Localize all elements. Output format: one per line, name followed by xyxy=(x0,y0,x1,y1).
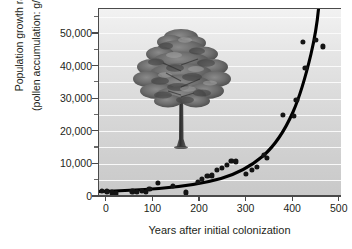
y-tick-label-10000: 10,000 xyxy=(0,157,92,169)
plot-area xyxy=(98,8,341,196)
x-axis-title: Years after initial colonization xyxy=(98,224,341,236)
x-axis-line xyxy=(98,195,341,197)
x-tick-500 xyxy=(338,196,339,201)
x-tick-400 xyxy=(292,196,293,201)
x-tick-100 xyxy=(152,196,153,201)
x-tick-label-0: 0 xyxy=(103,202,109,214)
y-tick-label-20000: 20,000 xyxy=(0,125,92,137)
x-tick-label-200: 200 xyxy=(190,202,208,214)
figure-container: Population growth rate (pollen accumulat… xyxy=(0,0,352,249)
x-tick-label-100: 100 xyxy=(144,202,162,214)
x-tick-label-300: 300 xyxy=(237,202,255,214)
y-axis-title-line1: Population growth rate xyxy=(13,0,25,91)
y-tick-label-30000: 30,000 xyxy=(0,92,92,104)
x-tick-300 xyxy=(245,196,246,201)
x-tick-200 xyxy=(198,196,199,201)
y-tick-label-50000: 50,000 xyxy=(0,27,92,39)
y-tick-label-0: 0 xyxy=(0,190,92,202)
y-tick-label-40000: 40,000 xyxy=(0,60,92,72)
x-tick-0 xyxy=(105,196,106,201)
x-tick-label-500: 500 xyxy=(330,202,348,214)
x-tick-label-400: 400 xyxy=(283,202,301,214)
